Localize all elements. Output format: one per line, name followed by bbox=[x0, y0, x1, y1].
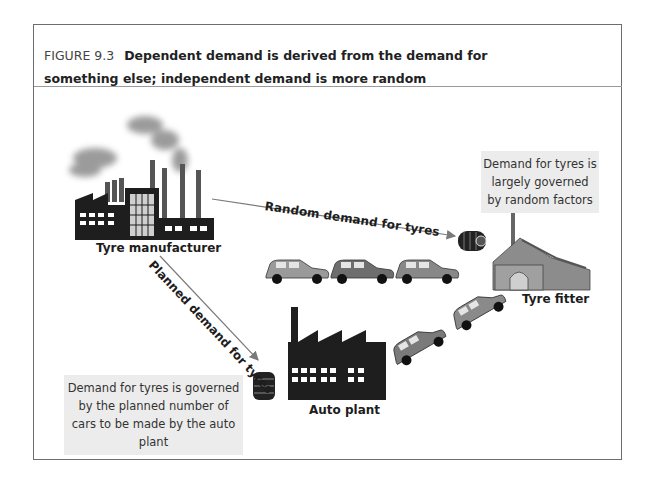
tyre-manufacturer-label: Tyre manufacturer bbox=[96, 241, 221, 255]
car-icon bbox=[396, 260, 459, 284]
auto-plant-label: Auto plant bbox=[309, 403, 380, 417]
car-icon bbox=[448, 285, 509, 334]
car-icon bbox=[331, 260, 394, 284]
auto-plant-factory-icon bbox=[288, 307, 386, 400]
tyre-stack-icon bbox=[458, 231, 486, 251]
smoke-icon bbox=[69, 116, 188, 177]
tyre-fitter-label: Tyre fitter bbox=[522, 292, 589, 306]
car-icon bbox=[388, 320, 449, 369]
tyre-fitter-building-icon bbox=[493, 210, 590, 290]
dependent-demand-note: Demand for tyres is governed by the plan… bbox=[64, 375, 243, 455]
independent-demand-note: Demand for tyres is largely governed by … bbox=[481, 151, 599, 213]
car-icon bbox=[266, 260, 329, 284]
planned-demand-arrow bbox=[160, 256, 258, 360]
